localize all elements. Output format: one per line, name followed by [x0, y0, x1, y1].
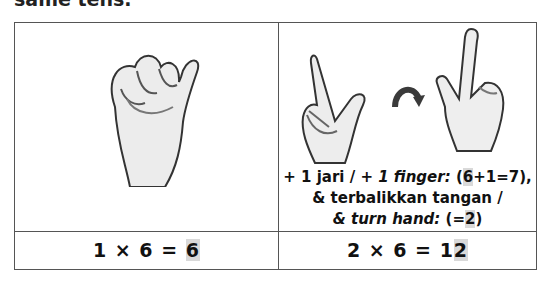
- caption-line-2: & terbalikkan tangan /: [279, 188, 536, 209]
- caption-line-3: & turn hand: (=2): [279, 209, 536, 230]
- cell-hand-flip: + 1 jari / + 1 finger: (6+1=7), & terbal…: [279, 23, 536, 231]
- finger-multiplication-table: + 1 jari / + 1 finger: (6+1=7), & terbal…: [14, 22, 537, 270]
- highlight-result: 6: [186, 239, 200, 261]
- curved-arrow-flip-icon: [391, 81, 425, 111]
- flip-instruction-caption: + 1 jari / + 1 finger: (6+1=7), & terbal…: [279, 167, 536, 230]
- heading-fragment: same tens.: [14, 0, 131, 10]
- highlight-two: 2: [465, 210, 475, 228]
- caption-line-1: + 1 jari / + 1 finger: (6+1=7),: [279, 167, 536, 188]
- cell-hand-fist: [15, 23, 278, 231]
- closed-fist-thumb-up-icon: [85, 37, 205, 187]
- highlight-six: 6: [463, 168, 473, 186]
- hand-index-thumb-icon: [295, 51, 375, 171]
- equation-2x6: 2 × 6 = 12: [279, 232, 536, 269]
- hand-turned-index-up-icon: [431, 25, 511, 155]
- highlight-result: 2: [454, 239, 468, 261]
- equation-1x6: 1 × 6 = 6: [15, 232, 278, 269]
